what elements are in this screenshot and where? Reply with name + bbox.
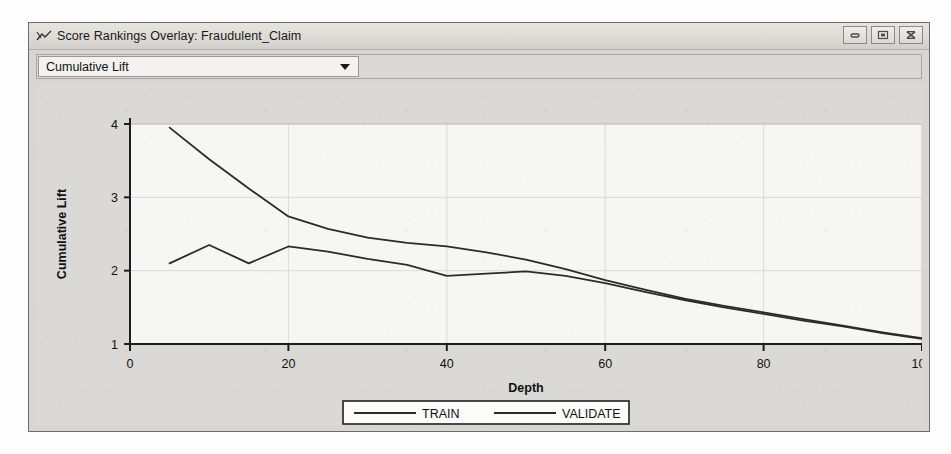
window-controls xyxy=(843,26,923,44)
x-axis-title: Depth xyxy=(508,381,543,395)
maximize-icon xyxy=(877,30,889,40)
chart-panel: 020406080100 1234 Cumulative Lift Depth … xyxy=(36,85,922,425)
chart-legend: TRAINVALIDATE xyxy=(343,401,629,424)
x-tick-label: 20 xyxy=(281,357,295,371)
close-icon xyxy=(905,30,917,40)
chevron-down-icon[interactable] xyxy=(340,64,350,70)
minimize-button[interactable] xyxy=(843,26,867,44)
screenshot-root: Score Rankings Overlay: Fraudulent_Claim xyxy=(0,0,951,454)
x-tick-label: 80 xyxy=(757,357,771,371)
legend-label-train: TRAIN xyxy=(422,407,460,421)
plot-background xyxy=(130,124,922,344)
chart-toolbar: Cumulative Lift xyxy=(36,54,922,79)
legend-label-validate: VALIDATE xyxy=(562,407,621,421)
y-tick-label: 3 xyxy=(111,191,118,205)
window-titlebar[interactable]: Score Rankings Overlay: Fraudulent_Claim xyxy=(29,23,929,50)
measure-select-value: Cumulative Lift xyxy=(46,60,129,74)
score-rankings-overlay-window: Score Rankings Overlay: Fraudulent_Claim xyxy=(28,22,930,432)
x-tick-label: 100 xyxy=(912,357,922,371)
x-tick-label: 40 xyxy=(440,357,454,371)
x-axis-ticks: 020406080100 xyxy=(127,344,922,371)
x-tick-label: 60 xyxy=(598,357,612,371)
maximize-button[interactable] xyxy=(871,26,895,44)
cumulative-lift-chart: 020406080100 1234 Cumulative Lift Depth … xyxy=(36,85,922,425)
y-tick-label: 4 xyxy=(111,118,118,132)
y-tick-label: 2 xyxy=(111,264,118,278)
window-title: Score Rankings Overlay: Fraudulent_Claim xyxy=(57,29,301,43)
x-tick-label: 0 xyxy=(127,357,134,371)
y-axis-ticks: 1234 xyxy=(111,118,130,352)
y-axis-title: Cumulative Lift xyxy=(55,188,69,279)
minimize-icon xyxy=(849,30,861,40)
y-tick-label: 1 xyxy=(111,338,118,352)
close-button[interactable] xyxy=(899,26,923,44)
line-chart-icon xyxy=(36,29,52,43)
measure-select[interactable]: Cumulative Lift xyxy=(38,56,359,77)
